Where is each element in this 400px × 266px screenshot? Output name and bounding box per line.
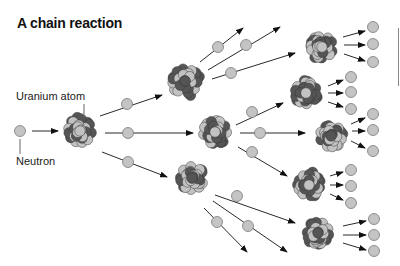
neutron: [232, 191, 243, 202]
arrow: [328, 80, 343, 86]
neutron: [212, 217, 223, 228]
arrow: [328, 102, 343, 107]
neutron: [247, 107, 258, 118]
uranium-nucleus: [64, 112, 97, 147]
neutron: [369, 246, 380, 257]
uranium-nucleus: [175, 162, 207, 195]
neutron: [346, 198, 357, 209]
uranium-nucleus: [291, 75, 323, 108]
neutron: [122, 99, 133, 110]
uranium-nucleus: [293, 167, 326, 201]
neutron: [346, 181, 357, 192]
chain-reaction-diagram: [0, 0, 400, 266]
arrow: [343, 31, 365, 37]
uranium-nucleus: [168, 64, 205, 101]
neutron: [213, 42, 224, 53]
neutron: [368, 22, 379, 33]
neutron: [123, 157, 134, 168]
neutron: [368, 125, 379, 136]
arrow: [215, 195, 295, 223]
arrow: [238, 147, 287, 176]
neutron: [243, 221, 254, 232]
arrow: [344, 54, 365, 61]
neutron: [226, 68, 237, 79]
arrow: [330, 172, 343, 176]
uranium-nucleus: [306, 32, 337, 63]
neutron: [369, 230, 380, 241]
neutron: [247, 147, 258, 158]
neutron: [368, 109, 379, 120]
neutron: [241, 40, 252, 51]
neutron: [346, 72, 357, 83]
neutron: [255, 128, 266, 139]
arrow: [236, 103, 283, 125]
neutron: [369, 214, 380, 225]
neutron: [346, 104, 357, 115]
neutron: [368, 57, 379, 68]
uranium-nucleus: [302, 217, 334, 249]
neutron: [123, 128, 134, 139]
arrow: [343, 221, 366, 226]
uranium-nuclei: [64, 32, 348, 250]
arrow: [351, 141, 365, 148]
neutron: [368, 146, 379, 157]
arrow: [102, 152, 167, 177]
arrow: [343, 243, 366, 250]
neutron: [368, 39, 379, 50]
neutron: [15, 126, 26, 137]
arrow: [351, 118, 365, 124]
neutron: [346, 165, 357, 176]
arrow: [212, 53, 295, 79]
arrow: [204, 208, 247, 252]
uranium-nucleus: [316, 121, 348, 152]
arrow: [330, 194, 343, 200]
neutron: [346, 87, 357, 98]
uranium-nucleus: [199, 116, 232, 149]
